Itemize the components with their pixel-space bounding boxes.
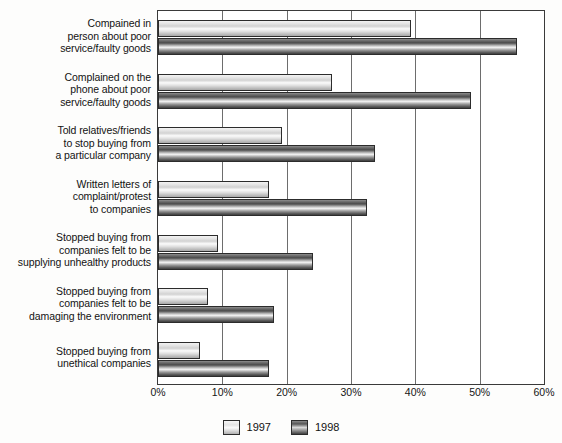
category-label-4: Written letters ofcomplaint/protestto co… [0, 178, 151, 215]
category-label-line: complaint/protest [0, 190, 151, 202]
category-label-line: Told relatives/friends [0, 124, 151, 136]
category-label-line: person about poor [0, 30, 151, 42]
category-axis-labels: Compained inperson about poorservice/fau… [0, 10, 155, 385]
legend-item-1998[interactable]: 1998 [291, 420, 339, 435]
x-tick-label: 50% [469, 386, 490, 398]
bar-1998-7 [158, 360, 269, 377]
chart-legend: 19971998 [0, 416, 562, 438]
legend-label: 1997 [247, 421, 271, 433]
category-label-line: damaging the environment [0, 310, 151, 322]
x-tick-label: 30% [340, 386, 361, 398]
bar-1998-3 [158, 145, 375, 162]
bar-1997-6 [158, 288, 208, 305]
category-label-1: Compained inperson about poorservice/fau… [0, 17, 151, 54]
bar-1997-5 [158, 235, 218, 252]
category-label-2: Complained on thephone about poorservice… [0, 71, 151, 108]
bar-1998-5 [158, 253, 313, 270]
category-label-line: companies felt to be [0, 297, 151, 309]
category-label-line: Stopped buying from [0, 231, 151, 243]
bar-1998-6 [158, 306, 274, 323]
bars-group [158, 11, 544, 384]
category-label-line: Compained in [0, 17, 151, 29]
category-label-line: Complained on the [0, 71, 151, 83]
category-label-line: Stopped buying from [0, 285, 151, 297]
category-label-line: supplying unhealthy products [0, 256, 151, 268]
x-axis-tick-labels: 0%10%20%30%40%50%60% [157, 386, 545, 404]
category-label-line: service/faulty goods [0, 96, 151, 108]
category-label-line: a particular company [0, 149, 151, 161]
category-label-7: Stopped buying fromunethical companies [0, 345, 151, 370]
category-label-line: to companies [0, 203, 151, 215]
category-label-6: Stopped buying fromcompanies felt to bed… [0, 285, 151, 322]
bar-1997-3 [158, 127, 282, 144]
bar-1997-1 [158, 20, 411, 37]
category-label-line: unethical companies [0, 357, 151, 369]
x-tick-label: 40% [405, 386, 426, 398]
bar-1998-4 [158, 199, 367, 216]
category-label-line: to stop buying from [0, 137, 151, 149]
plot-area [157, 10, 545, 385]
legend-swatch-icon-1997 [223, 420, 240, 435]
category-label-line: Written letters of [0, 178, 151, 190]
x-tick-label: 0% [150, 386, 165, 398]
legend-swatch-icon-1998 [291, 420, 308, 435]
x-tick-label: 20% [276, 386, 297, 398]
legend-item-1997[interactable]: 1997 [223, 420, 271, 435]
bar-1998-2 [158, 92, 471, 109]
category-label-5: Stopped buying fromcompanies felt to bes… [0, 231, 151, 268]
legend-label: 1998 [315, 421, 339, 433]
bar-1997-4 [158, 181, 269, 198]
category-label-line: Stopped buying from [0, 345, 151, 357]
x-tick-label: 10% [212, 386, 233, 398]
bar-1997-7 [158, 342, 200, 359]
category-label-3: Told relatives/friendsto stop buying fro… [0, 124, 151, 161]
x-tick-label: 60% [533, 386, 554, 398]
category-label-line: phone about poor [0, 83, 151, 95]
bar-1998-1 [158, 38, 517, 55]
bar-1997-2 [158, 74, 332, 91]
category-label-line: service/faulty goods [0, 42, 151, 54]
category-label-line: companies felt to be [0, 244, 151, 256]
bar-chart: Compained inperson about poorservice/fau… [0, 0, 562, 443]
